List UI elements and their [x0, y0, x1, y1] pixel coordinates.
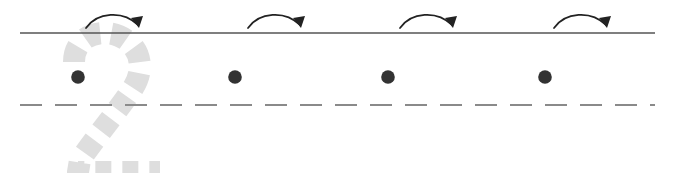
- direction-arrow-3-head-icon: [445, 16, 457, 28]
- direction-arrow-1-head-icon: [131, 16, 143, 28]
- direction-arrow-3-shaft: [400, 15, 452, 28]
- direction-arrow-2: [248, 15, 305, 28]
- direction-arrow-1-shaft: [86, 15, 138, 28]
- direction-arrow-4-head-icon: [599, 16, 611, 28]
- direction-arrow-1: [86, 15, 143, 28]
- direction-arrow-3: [400, 15, 457, 28]
- direction-arrow-4: [554, 15, 611, 28]
- direction-arrow-2-head-icon: [293, 16, 305, 28]
- handwriting-practice-worksheet: [0, 0, 673, 173]
- direction-arrows-layer: [0, 0, 673, 173]
- direction-arrow-4-shaft: [554, 15, 606, 28]
- direction-arrow-2-shaft: [248, 15, 300, 28]
